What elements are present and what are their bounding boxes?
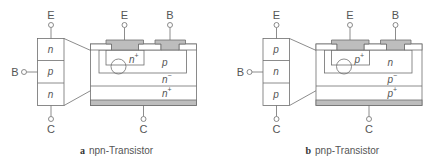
device-collector-label: C bbox=[365, 123, 373, 135]
caption-pnp: bpnp-Transistor bbox=[306, 145, 380, 156]
oxide-right bbox=[405, 44, 423, 50]
stack-layer-3: n bbox=[48, 89, 54, 100]
caption-npn: anpn-Transistor bbox=[80, 145, 154, 156]
stack-base-label: B bbox=[11, 66, 18, 78]
collector-terminal-icon bbox=[49, 117, 54, 122]
oxide-right bbox=[179, 44, 197, 50]
collector-terminal-icon bbox=[141, 117, 146, 122]
base-terminal-icon bbox=[22, 70, 27, 75]
collector-metal bbox=[316, 100, 422, 106]
panel-npn: E B C n p n bbox=[11, 9, 196, 156]
collector-terminal-icon bbox=[274, 117, 279, 122]
collector-terminal-icon bbox=[367, 117, 372, 122]
device-base-label: B bbox=[392, 9, 399, 21]
device-cross-section bbox=[316, 23, 422, 122]
base-terminal-icon bbox=[393, 23, 398, 28]
oxide-middle bbox=[364, 44, 387, 50]
stack-layer-2: p bbox=[47, 66, 54, 77]
stack-collector-label: C bbox=[273, 123, 281, 135]
device-body bbox=[91, 44, 197, 106]
emitter-terminal-icon bbox=[348, 23, 353, 28]
emitter-terminal-icon bbox=[274, 23, 279, 28]
oxide-left bbox=[91, 44, 112, 50]
oxide-middle bbox=[139, 44, 162, 50]
stack-base-label: B bbox=[237, 66, 244, 78]
transistor-figure: E B C n p n bbox=[0, 0, 440, 165]
device-collector-label: C bbox=[140, 123, 148, 135]
stack-layer-1: n bbox=[48, 44, 54, 55]
emitter-metal bbox=[106, 40, 144, 50]
stack-emitter-label: E bbox=[273, 9, 280, 21]
device-base-label: B bbox=[166, 9, 173, 21]
device-emitter-label: E bbox=[121, 9, 128, 21]
emitter-metal bbox=[332, 40, 370, 50]
stack-collector-label: C bbox=[47, 123, 55, 135]
base-region-label: p bbox=[161, 57, 168, 68]
base-terminal-icon bbox=[247, 70, 252, 75]
device-cross-section bbox=[91, 23, 197, 122]
stack-layer-3: p bbox=[272, 89, 279, 100]
emitter-terminal-icon bbox=[49, 23, 54, 28]
stack-layer-2: n bbox=[273, 66, 279, 77]
panel-pnp: E B C p n p E B C p+ n p− bbox=[237, 9, 422, 156]
base-region-label: n bbox=[388, 57, 394, 68]
oxide-left bbox=[316, 44, 337, 50]
emitter-terminal-icon bbox=[122, 23, 127, 28]
stack-layer-1: p bbox=[272, 44, 279, 55]
stack-emitter-label: E bbox=[47, 9, 54, 21]
device-emitter-label: E bbox=[346, 9, 353, 21]
base-terminal-icon bbox=[168, 23, 173, 28]
collector-metal bbox=[91, 100, 197, 106]
